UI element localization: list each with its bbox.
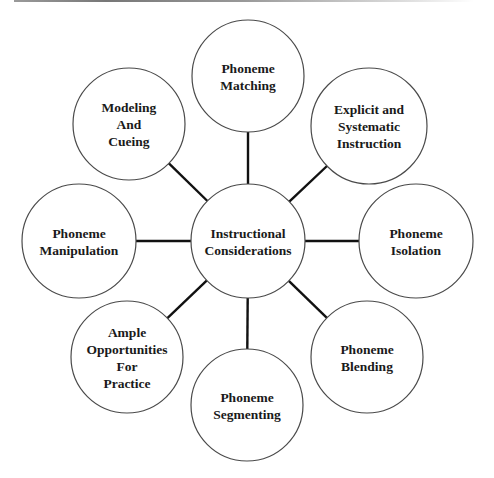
connector-explicit-systematic-instruction xyxy=(289,166,327,202)
node-phoneme-isolation: PhonemeIsolation xyxy=(359,184,473,298)
node-phoneme-segmenting: PhonemeSegmenting xyxy=(191,349,303,461)
node-circle xyxy=(22,184,136,298)
nodes: PhonemeMatchingExplicit andSystematicIns… xyxy=(22,20,473,461)
node-label: Ample xyxy=(108,325,146,340)
node-label: Instruction xyxy=(337,136,402,151)
node-circle xyxy=(191,349,303,461)
node-label: Practice xyxy=(103,376,150,391)
node-circle xyxy=(191,184,305,298)
node-phoneme-blending: PhonemeBlending xyxy=(311,301,423,413)
node-label: Cueing xyxy=(108,134,150,149)
node-circle xyxy=(71,301,183,413)
node-circle xyxy=(192,20,304,132)
node-ample-opportunities-for-practice: AmpleOpportunitiesForPractice xyxy=(71,301,183,413)
node-label: And xyxy=(117,117,142,132)
node-label: Instructional xyxy=(210,226,285,241)
node-label: Considerations xyxy=(204,243,291,258)
node-circle xyxy=(359,184,473,298)
node-label: Phoneme xyxy=(221,61,274,76)
node-label: Phoneme xyxy=(340,342,393,357)
node-label: Modeling xyxy=(102,100,157,115)
node-explicit-systematic-instruction: Explicit andSystematicInstruction xyxy=(311,68,427,184)
node-label: Phoneme xyxy=(220,390,273,405)
node-label: Systematic xyxy=(338,119,400,134)
node-label: Isolation xyxy=(391,243,442,258)
node-label: Opportunities xyxy=(86,342,167,357)
node-phoneme-manipulation: PhonemeManipulation xyxy=(22,184,136,298)
node-label: Manipulation xyxy=(40,243,119,258)
node-label: For xyxy=(117,359,138,374)
concept-diagram: PhonemeMatchingExplicit andSystematicIns… xyxy=(0,0,494,478)
center-node-instructional-considerations: InstructionalConsiderations xyxy=(191,184,305,298)
node-label: Phoneme xyxy=(52,226,105,241)
node-circle xyxy=(311,301,423,413)
node-label: Matching xyxy=(220,78,276,93)
connector-ample-opportunities-for-practice xyxy=(167,280,207,318)
node-label: Blending xyxy=(341,359,393,374)
node-modeling-and-cueing: ModelingAndCueing xyxy=(73,68,185,180)
connector-modeling-and-cueing xyxy=(169,163,208,201)
node-phoneme-matching: PhonemeMatching xyxy=(192,20,304,132)
node-label: Segmenting xyxy=(213,407,281,422)
connector-phoneme-blending xyxy=(289,281,327,318)
node-label: Phoneme xyxy=(389,226,442,241)
node-label: Explicit and xyxy=(334,102,405,117)
